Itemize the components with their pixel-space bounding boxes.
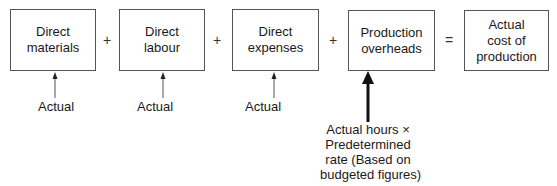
overheads-line: Actual hours × <box>320 122 416 137</box>
plus-operator: + <box>329 32 337 48</box>
box-direct-expenses: Directexpenses <box>232 9 319 71</box>
arrow-materials <box>53 72 58 98</box>
plus-operator: + <box>213 32 221 48</box>
box-actual-cost-of-production: Actualcost ofproduction <box>464 10 549 71</box>
equals-operator: = <box>445 32 453 48</box>
box-text: cost of <box>476 33 537 49</box>
overheads-line: rate (Based on <box>320 152 416 167</box>
label-actual-labour: Actual <box>137 99 173 114</box>
box-text: expenses <box>248 40 304 56</box>
label-actual-materials: Actual <box>38 99 74 114</box>
box-text: Production <box>360 25 422 41</box>
arrow-labour <box>161 72 166 98</box>
box-text: materials <box>27 40 80 56</box>
box-direct-labour: Directlabour <box>119 9 205 71</box>
label-overheads-basis: Actual hours × Predetermined rate (Based… <box>320 122 416 182</box>
box-text: Direct <box>248 24 304 40</box>
arrow-overheads-bold <box>362 71 374 122</box>
box-text: production <box>476 49 537 65</box>
box-production-overheads: Productionoverheads <box>348 10 435 71</box>
box-text: Direct <box>27 24 80 40</box>
box-text: Actual <box>476 17 537 33</box>
arrow-expenses <box>272 72 277 98</box>
box-text: labour <box>144 40 180 56</box>
box-text: overheads <box>360 41 422 57</box>
box-text: Direct <box>144 24 180 40</box>
plus-operator: + <box>103 32 111 48</box>
box-direct-materials: Directmaterials <box>10 9 96 71</box>
overheads-line: Predetermined <box>320 137 416 152</box>
overheads-line: budgeted figures) <box>320 167 416 182</box>
label-actual-expenses: Actual <box>245 99 281 114</box>
